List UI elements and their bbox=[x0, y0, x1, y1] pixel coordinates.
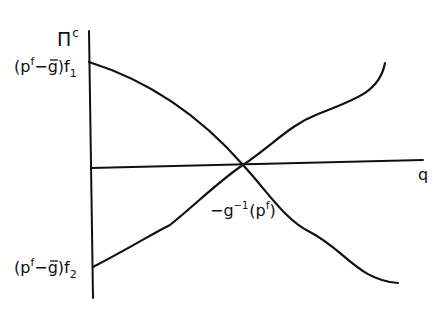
svg-text:(pf−g)f2: (pf−g)f2 bbox=[14, 256, 77, 281]
x-axis bbox=[91, 160, 423, 168]
profit-diagram: Πc q (pf−g)f1 (pf−g)f2 −g−1(pf) bbox=[0, 0, 441, 314]
y-axis-label: Πc bbox=[57, 26, 79, 50]
bottom-intercept-label: (pf−g)f2 bbox=[14, 256, 77, 281]
descending-profit-curve bbox=[89, 62, 398, 283]
top-intercept-label: (pf−g)f1 bbox=[14, 55, 77, 80]
x-axis-label: q bbox=[418, 165, 428, 184]
svg-text:(pf−g)f1: (pf−g)f1 bbox=[14, 55, 77, 80]
crossing-label: −g−1(pf) bbox=[210, 199, 276, 220]
y-axis bbox=[89, 31, 93, 298]
